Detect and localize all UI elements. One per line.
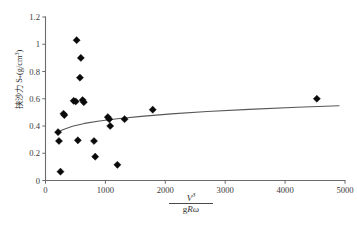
- data-point: [76, 74, 83, 81]
- data-point: [77, 54, 84, 61]
- data-point: [90, 137, 97, 144]
- y-axis-unit-exponent: 3: [13, 52, 20, 55]
- y-axis-tick-labels: 00.20.40.60.811.2: [29, 12, 40, 186]
- y-tick-label: 0.6: [29, 94, 40, 104]
- data-point: [121, 116, 128, 123]
- y-axis-unit-open: (g/cm: [15, 56, 24, 76]
- y-axis-unit-close: ): [15, 50, 24, 53]
- y-axis-title: 挟沙力 S*(g/cm3): [14, 14, 25, 144]
- data-point: [92, 153, 99, 160]
- y-tick-label: 0.8: [29, 67, 40, 77]
- y-tick-label: 1: [36, 39, 40, 49]
- x-axis-denominator: gRω: [168, 204, 214, 214]
- data-point: [74, 137, 81, 144]
- x-axis-title: V3 gRω: [168, 192, 214, 214]
- data-point: [313, 95, 320, 102]
- x-axis-numerator-exponent: 3: [192, 191, 195, 198]
- y-tick-label: 0.4: [29, 121, 40, 131]
- y-tick-label: 0: [36, 176, 40, 186]
- x-axis-numerator: V3: [168, 192, 214, 203]
- x-axis-denominator-omega: ω: [193, 204, 199, 214]
- data-point: [114, 161, 121, 168]
- x-tick-label: 3000: [217, 185, 234, 195]
- data-points: [54, 37, 320, 176]
- y-tick-label: 0.2: [29, 148, 40, 158]
- data-point: [107, 122, 114, 129]
- y-tick-label: 1.2: [29, 12, 40, 22]
- x-tick-label: 4000: [277, 185, 294, 195]
- data-point: [55, 137, 62, 144]
- fit-curve: [56, 106, 339, 133]
- axes: [45, 17, 345, 181]
- data-point: [149, 106, 156, 113]
- x-tick-label: 5000: [336, 185, 353, 195]
- chart-figure: 010002000300040005000 00.20.40.60.811.2 …: [0, 0, 357, 228]
- x-tick-label: 0: [43, 185, 47, 195]
- y-axis-title-sub: *: [17, 75, 24, 78]
- data-point: [54, 129, 61, 136]
- data-point: [73, 37, 80, 44]
- data-point: [57, 168, 64, 175]
- y-axis-title-main: 挟沙力 S: [15, 78, 24, 109]
- x-tick-label: 1000: [97, 185, 114, 195]
